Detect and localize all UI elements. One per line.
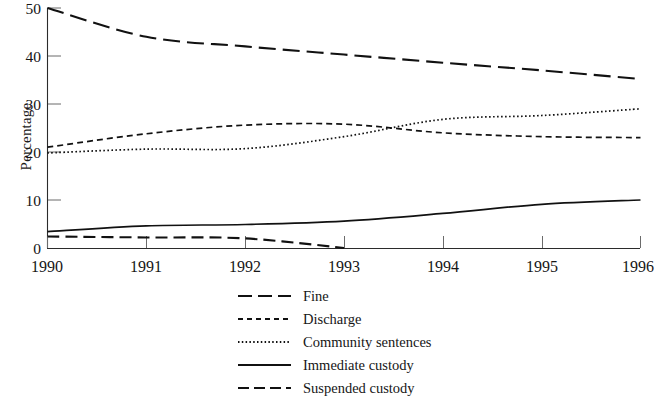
y-tick-label-30: 30 [26,96,42,113]
y-tick-label-40: 40 [26,48,42,65]
y-axis-ticks: 50 40 30 20 10 0 [26,0,62,257]
legend-item-fine[interactable]: Fine [238,288,329,304]
x-tick-label-1996: 1996 [622,258,654,275]
legend-label-fine: Fine [303,288,329,304]
series-line-community-sentences [48,109,641,153]
y-tick-label-10: 10 [26,192,42,209]
x-tick-label-1991: 1991 [130,258,162,275]
line-chart: 50 40 30 20 10 0 1990 199 [0,0,658,401]
series-line-discharge [48,123,641,147]
legend-label-suspended-custody: Suspended custody [303,380,415,396]
legend-label-community-sentences: Community sentences [303,334,432,350]
series-layer [48,8,641,248]
chart-figure: Percentage 50 40 30 20 10 0 [0,0,658,401]
x-axis-tick-labels: 1990 1991 1992 1993 1994 1995 1996 [31,258,654,275]
legend-item-discharge[interactable]: Discharge [238,311,362,327]
x-tick-label-1992: 1992 [229,258,261,275]
y-tick-label-50: 50 [26,0,42,17]
chart-legend: Fine Discharge Community sentences Immed… [238,288,432,396]
x-tick-label-1993: 1993 [328,258,360,275]
y-tick-label-20: 20 [26,144,42,161]
series-line-fine [48,8,641,79]
x-tick-label-1995: 1995 [526,258,558,275]
legend-item-community-sentences[interactable]: Community sentences [238,334,432,350]
legend-label-immediate-custody: Immediate custody [303,357,414,373]
legend-item-immediate-custody[interactable]: Immediate custody [238,357,414,373]
y-tick-label-0: 0 [33,240,41,257]
series-line-suspended-custody [48,236,345,248]
legend-item-suspended-custody[interactable]: Suspended custody [238,380,415,396]
series-line-immediate-custody [48,200,641,232]
legend-label-discharge: Discharge [303,311,362,327]
x-tick-label-1990: 1990 [31,258,63,275]
x-tick-label-1994: 1994 [427,258,459,275]
x-axis-ticks [48,236,641,248]
